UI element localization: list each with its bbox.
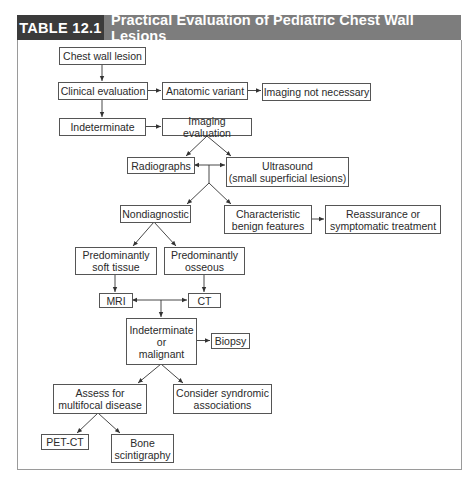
- table-title: Practical Evaluation of Pediatric Chest …: [104, 15, 461, 40]
- node-pet-ct: PET-CT: [41, 434, 89, 450]
- node-clinical-evaluation: Clinical evaluation: [58, 82, 148, 100]
- node-radiographs: Radiographs: [127, 157, 195, 174]
- node-mri: MRI: [99, 293, 133, 308]
- node-indeterminate-malignant: Indeterminate or malignant: [126, 318, 197, 365]
- node-ultrasound: Ultrasound (small superficial lesions): [226, 157, 349, 187]
- node-nondiagnostic: Nondiagnostic: [120, 205, 191, 223]
- node-indeterminate: Indeterminate: [59, 118, 146, 136]
- table-number-label: TABLE 12.1: [17, 15, 104, 40]
- node-imaging-not-necessary: Imaging not necessary: [262, 83, 371, 101]
- node-multifocal: Assess for multifocal disease: [53, 384, 147, 414]
- node-anatomic-variant: Anatomic variant: [162, 82, 248, 100]
- node-reassurance: Reassurance or symptomatic treatment: [325, 205, 441, 234]
- node-biopsy: Biopsy: [211, 333, 250, 349]
- table-header: TABLE 12.1 Practical Evaluation of Pedia…: [17, 15, 461, 40]
- node-ct: CT: [188, 293, 221, 308]
- node-syndromic: Consider syndromic associations: [173, 384, 272, 414]
- node-bone-scintigraphy: Bone scintigraphy: [111, 434, 174, 463]
- node-osseous: Predominantly osseous: [164, 247, 245, 275]
- node-soft-tissue: Predominantly soft tissue: [75, 247, 157, 275]
- node-characteristic-benign: Characteristic benign features: [224, 205, 312, 234]
- node-chest-wall-lesion: Chest wall lesion: [59, 47, 146, 65]
- node-imaging-evaluation: Imaging evaluation: [162, 118, 252, 136]
